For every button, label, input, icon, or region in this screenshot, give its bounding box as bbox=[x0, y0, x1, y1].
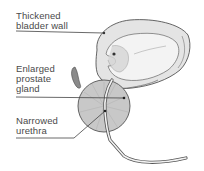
label-enlarged-prostate-gland: Enlarged prostate gland bbox=[16, 64, 55, 94]
label-narrowed-urethra: Narrowed urethra bbox=[16, 116, 58, 136]
seminal-vesicle bbox=[72, 67, 81, 88]
ureter-opening bbox=[112, 52, 115, 55]
leader-line-bladder bbox=[16, 31, 104, 33]
label-line: gland bbox=[16, 84, 55, 94]
label-line: bladder wall bbox=[16, 21, 68, 31]
label-thickened-bladder-wall: Thickened bladder wall bbox=[16, 11, 68, 31]
label-line: urethra bbox=[16, 126, 58, 136]
